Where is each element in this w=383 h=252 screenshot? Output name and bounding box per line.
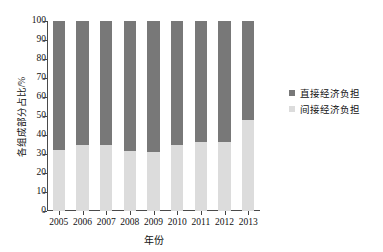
bar-segment-indirect[interactable]: [242, 120, 254, 211]
legend-item-label: 间接经济负担: [300, 102, 360, 116]
legend-item[interactable]: 直接经济负担: [289, 86, 381, 100]
x-axis-tick-mark: [154, 211, 155, 215]
bar-segment-direct[interactable]: [147, 21, 159, 152]
x-axis-tick-mark: [106, 211, 107, 215]
bar-segment-indirect[interactable]: [100, 145, 112, 212]
bar-segment-indirect[interactable]: [218, 142, 230, 211]
bar-segment-direct[interactable]: [195, 21, 207, 142]
x-axis-tick-mark: [248, 211, 249, 215]
bar-group[interactable]: [76, 21, 88, 211]
bar-segment-indirect[interactable]: [171, 145, 183, 212]
bar-group[interactable]: [147, 21, 159, 211]
bar-segment-direct[interactable]: [100, 21, 112, 145]
bar-segment-direct[interactable]: [218, 21, 230, 142]
bar-segment-direct[interactable]: [242, 21, 254, 120]
bars-layer: [47, 21, 260, 211]
x-axis-tick-mark: [225, 211, 226, 215]
bar-group[interactable]: [124, 21, 136, 211]
x-axis-tick-label: 2006: [73, 217, 92, 227]
bar-group[interactable]: [218, 21, 230, 211]
legend-swatch-icon: [289, 106, 295, 112]
bar-segment-indirect[interactable]: [124, 151, 136, 211]
x-axis-tick-label: 2009: [144, 217, 163, 227]
x-axis-tick-label: 2005: [49, 217, 68, 227]
x-axis-tick-mark: [83, 211, 84, 215]
legend-item[interactable]: 间接经济负担: [289, 102, 381, 116]
chart-legend: 直接经济负担间接经济负担: [289, 86, 381, 118]
bar-group[interactable]: [100, 21, 112, 211]
x-axis-tick-label: 2013: [239, 217, 258, 227]
x-axis-tick-label: 2010: [168, 217, 187, 227]
bar-group[interactable]: [242, 21, 254, 211]
bar-segment-direct[interactable]: [171, 21, 183, 145]
x-axis-tick-mark: [130, 211, 131, 215]
x-axis-tick-mark: [177, 211, 178, 215]
bar-group[interactable]: [171, 21, 183, 211]
x-axis-tick-label: 2012: [215, 217, 234, 227]
x-axis-tick-label: 2008: [120, 217, 139, 227]
bar-segment-indirect[interactable]: [195, 142, 207, 211]
bar-segment-indirect[interactable]: [147, 152, 159, 211]
bar-segment-indirect[interactable]: [76, 145, 88, 212]
x-axis-tick-label: 2007: [97, 217, 116, 227]
x-axis-tick-mark: [59, 211, 60, 215]
legend-swatch-icon: [289, 90, 295, 96]
legend-item-label: 直接经济负担: [300, 86, 360, 100]
bar-segment-indirect[interactable]: [53, 150, 65, 211]
x-axis-tick-label: 2011: [192, 217, 211, 227]
bar-group[interactable]: [195, 21, 207, 211]
bar-segment-direct[interactable]: [76, 21, 88, 145]
x-axis-title: 年份: [47, 232, 260, 247]
y-axis-tick-mark: [43, 211, 47, 212]
stacked-bar-chart: 各组成部分占比/% 0102030405060708090100 2005200…: [0, 0, 383, 252]
bar-segment-direct[interactable]: [124, 21, 136, 151]
bar-segment-direct[interactable]: [53, 21, 65, 150]
x-axis-tick-mark: [201, 211, 202, 215]
bar-group[interactable]: [53, 21, 65, 211]
